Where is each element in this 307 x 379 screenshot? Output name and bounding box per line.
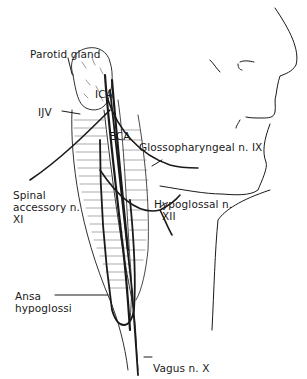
label-spinal-accessory-line3: XI <box>13 213 24 225</box>
label-ica: ICA <box>95 88 113 100</box>
anatomy-diagram: Parotid gland ICA IJV ECA Glossopharynge… <box>0 0 307 379</box>
label-hypoglossal-line2: XII <box>162 210 176 222</box>
label-glossopharyngeal-nerve: Glossopharyngeal n. IX <box>139 141 262 153</box>
label-ansa-line1: Ansa <box>15 290 41 302</box>
label-parotid-gland: Parotid gland <box>30 48 100 60</box>
label-hypoglossal-line1: Hypoglossal n. <box>154 198 232 210</box>
label-ijv: IJV <box>38 106 52 118</box>
spinal-accessory-nerve <box>30 110 110 180</box>
label-eca: ECA <box>109 130 130 142</box>
face-profile-outline <box>160 8 297 330</box>
label-vagus-nerve: Vagus n. X <box>153 362 209 374</box>
label-spinal-accessory-line2: accessory n. <box>13 201 80 213</box>
label-spinal-accessory-line1: Spinal <box>13 189 46 201</box>
label-ansa-line2: hypoglossi <box>15 302 72 314</box>
